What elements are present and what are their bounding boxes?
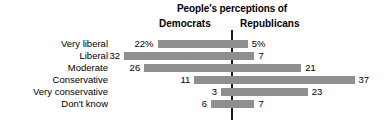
- democrats-value-label: 26: [130, 62, 141, 74]
- row-category-label: Don't know: [0, 98, 108, 110]
- diverging-bar: [158, 40, 248, 48]
- chart-rows: Very liberal22%5%Liberal327Moderate2621C…: [0, 38, 388, 110]
- chart-row: Liberal327: [0, 50, 388, 62]
- chart-row: Very conservative323: [0, 86, 388, 98]
- democrats-value-label: 32: [110, 50, 121, 62]
- chart-row: Don't know67: [0, 98, 388, 110]
- diverging-bar: [144, 64, 301, 72]
- row-category-label: Very liberal: [0, 38, 108, 50]
- republicans-value-label: 7: [258, 98, 263, 110]
- republicans-value-label: 37: [359, 74, 370, 86]
- chart-row: Conservative1137: [0, 74, 388, 86]
- diverging-bar: [221, 88, 308, 96]
- column-header-democrats: Democrats: [159, 18, 211, 29]
- republicans-value-label: 7: [258, 50, 263, 62]
- diverging-bar: [124, 52, 254, 60]
- democrats-value-label: 3: [212, 86, 217, 98]
- chart-title-text: People's perceptions of: [177, 3, 287, 14]
- row-category-label: Conservative: [0, 74, 108, 86]
- chart-row: Very liberal22%5%: [0, 38, 388, 50]
- row-category-label: Moderate: [0, 62, 108, 74]
- republicans-value-label: 21: [305, 62, 316, 74]
- diverging-bar-chart: People's perceptions of Democrats Republ…: [0, 0, 388, 129]
- chart-row: Moderate2621: [0, 62, 388, 74]
- column-header-republicans: Republicans: [240, 18, 299, 29]
- diverging-bar: [194, 76, 354, 84]
- democrats-value-label: 6: [202, 98, 207, 110]
- row-category-label: Liberal: [0, 50, 108, 62]
- row-category-label: Very conservative: [0, 86, 108, 98]
- democrats-value-label: 22%: [135, 38, 154, 50]
- republicans-value-label: 23: [312, 86, 323, 98]
- diverging-bar: [211, 100, 254, 108]
- republicans-value-label: 5%: [252, 38, 266, 50]
- chart-title: People's perceptions of: [0, 3, 388, 14]
- democrats-value-label: 11: [180, 74, 190, 86]
